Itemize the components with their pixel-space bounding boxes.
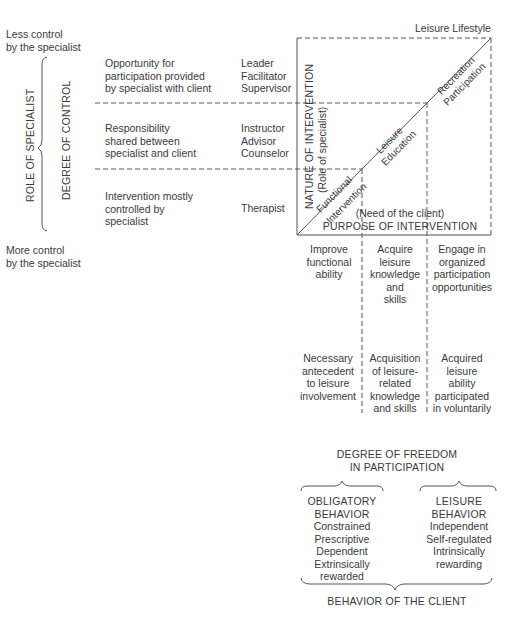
column-3-outcome: Acquiredleisureabilityparticipatedin vol… [428,352,496,415]
row-1-description: Opportunity forparticipation providedby … [105,57,211,95]
less-control-label: Less controlby the specialist [6,28,81,53]
leisure-behavior: LEISUREBEHAVIOR IndependentSelf-regulate… [414,495,504,570]
column-2-purpose: Acquireleisureknowledgeandskills [363,243,427,306]
degree-of-freedom-label: DEGREE OF FREEDOMIN PARTICIPATION [297,448,497,473]
more-control-label: More controlby the specialist [6,244,81,269]
column-2-outcome: Acquisitionof leisure-relatedknowledgean… [363,352,427,415]
row-2-description: Responsibilityshared betweenspecialist a… [105,122,196,160]
leisure-lifestyle-label: Leisure Lifestyle [415,22,491,35]
nature-of-intervention-label: NATURE OF INTERVENTION [303,64,316,209]
leisure-brace [420,481,496,491]
row-2-roles: InstructorAdvisorCounselor [241,122,289,160]
row-3-description: Intervention mostlycontrolled byspeciali… [105,190,193,228]
column-3-purpose: Engage inorganizedparticipationopportuni… [428,243,496,293]
role-brace [38,57,47,231]
column-1-purpose: Improvefunctionalability [297,243,361,281]
role-of-specialist-label: ROLE OF SPECIALIST [24,89,37,202]
row-3-roles: Therapist [241,202,285,215]
column-1-outcome: Necessaryantecedentto leisureinvolvement [294,352,362,402]
degree-of-control-label: DEGREE OF CONTROL [60,81,73,201]
row-1-roles: LeaderFacilitatorSupervisor [241,57,291,95]
behavior-of-client-label: BEHAVIOR OF THE CLIENT [297,595,497,608]
role-of-specialist-sublabel: (Role of specialist) [316,107,329,193]
obligatory-brace [301,481,383,491]
obligatory-behavior: OBLIGATORYBEHAVIOR ConstrainedPrescripti… [297,495,387,583]
